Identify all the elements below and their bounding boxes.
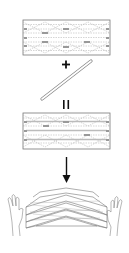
- right-hand-icon: [107, 197, 122, 237]
- assembled-sheet: [23, 113, 110, 149]
- crease-pattern-sheet: [23, 20, 110, 55]
- plus-operator-icon: [62, 61, 70, 69]
- folded-structure: [26, 188, 107, 228]
- arrow-down-icon: [63, 157, 71, 183]
- equals-operator-icon: [63, 100, 69, 109]
- left-hand-icon: [8, 195, 23, 237]
